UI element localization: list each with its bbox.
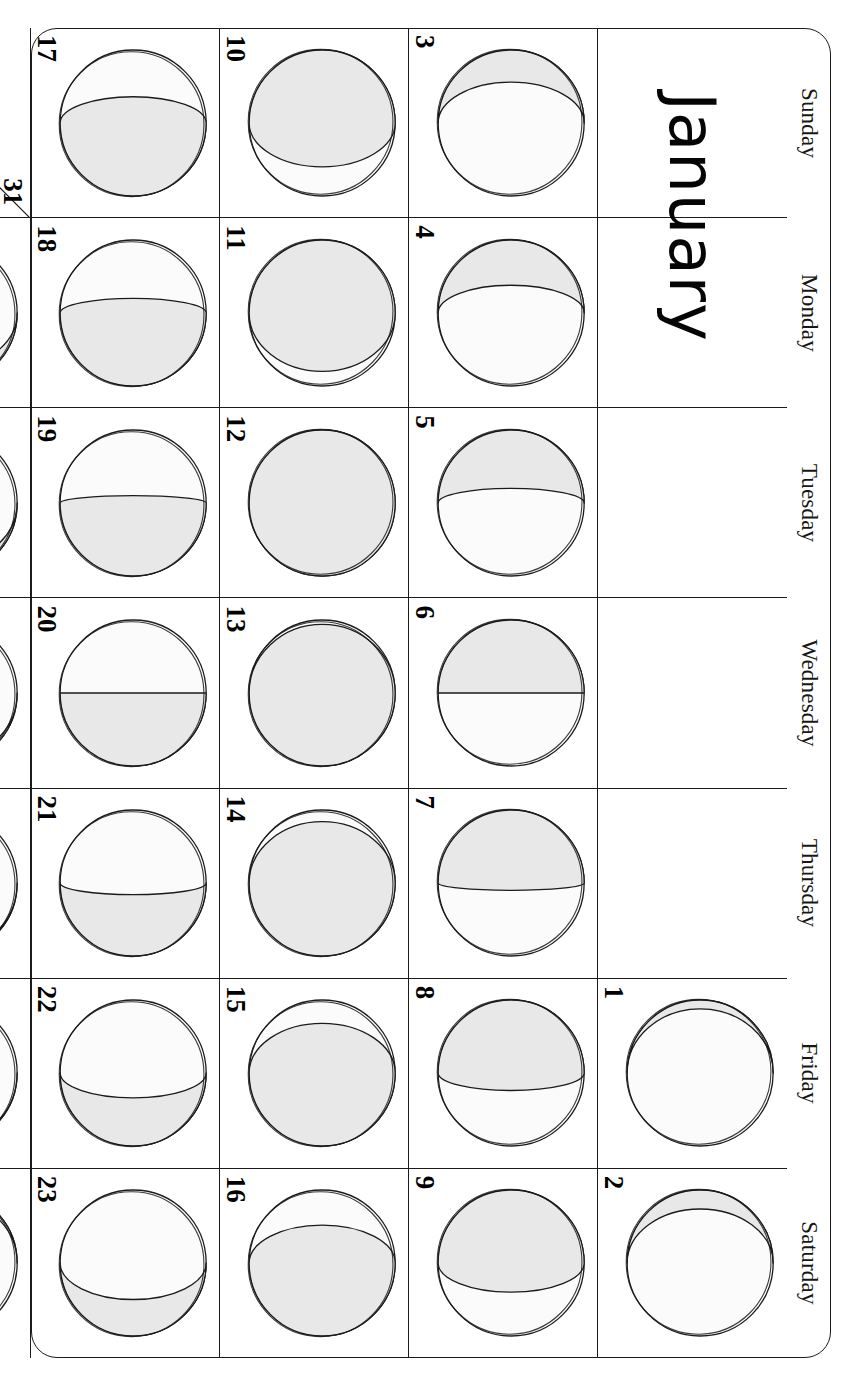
calendar-cell-day-4[interactable]: 4 [409, 217, 598, 407]
calendar-stage: SundayMondayTuesdayWednesdayThursdayFrid… [0, 0, 861, 1386]
moon-phase-day-4 [432, 238, 586, 388]
moon-phase-day-15 [243, 998, 397, 1148]
calendar-cell-day-5[interactable]: 5 [409, 407, 598, 597]
moon-phase-day-22 [54, 998, 208, 1148]
moon-phase-day-5 [432, 428, 586, 578]
day-number-7: 7 [411, 796, 438, 810]
day-name-thursday: Thursday [787, 788, 831, 978]
day-number-5: 5 [411, 415, 438, 429]
calendar-cell-day-20[interactable]: 20 [31, 597, 220, 787]
calendar-cell-day-11[interactable]: 11 [220, 217, 409, 407]
calendar-grid: 1234567891011121314151617181920212223243… [31, 28, 787, 1358]
day-number-8: 8 [411, 986, 438, 1000]
calendar-week-row: 17181920212223 [31, 28, 220, 1358]
day-name-saturday: Saturday [787, 1168, 831, 1358]
moon-phase-day-19 [54, 428, 208, 578]
moon-phase-day-25 [0, 238, 19, 388]
day-name-header-row: SundayMondayTuesdayWednesdayThursdayFrid… [787, 28, 831, 1358]
calendar-cell-empty [598, 597, 787, 787]
calendar-cell-day-29[interactable]: 29 [0, 978, 31, 1168]
moon-phase-day-17 [54, 48, 208, 198]
day-number-11: 11 [222, 225, 249, 251]
calendar-cell-day-13[interactable]: 13 [220, 597, 409, 787]
calendar-cell-day-3[interactable]: 3 [409, 28, 598, 217]
moon-phase-day-20 [54, 618, 208, 768]
moon-phase-day-21 [54, 808, 208, 958]
moon-phase-day-27 [0, 618, 19, 768]
day-number-13: 13 [222, 605, 249, 632]
calendar-cell-empty [598, 217, 787, 407]
moon-phase-day-8 [432, 998, 586, 1148]
day-number-18: 18 [33, 225, 60, 252]
moon-phase-day-2 [622, 1188, 776, 1338]
day-number-6: 6 [411, 605, 438, 619]
day-number-16: 16 [222, 1176, 249, 1203]
day-number-4: 4 [411, 225, 438, 239]
split-day-cell: 2431 [0, 28, 30, 217]
day-number-10: 10 [222, 35, 249, 62]
calendar-cell-empty [598, 28, 787, 217]
calendar-week-row: 10111213141516 [220, 28, 409, 1358]
calendar-cell-day-17[interactable]: 17 [31, 28, 220, 217]
calendar-cell-day-24[interactable]: 2431 [0, 28, 31, 217]
calendar-week-row: 12 [598, 28, 787, 1358]
day-number-14: 14 [222, 796, 249, 823]
calendar-cell-day-8[interactable]: 8 [409, 978, 598, 1168]
calendar-cell-day-23[interactable]: 23 [31, 1168, 220, 1358]
calendar-cell-empty [598, 788, 787, 978]
moon-phase-day-11 [243, 238, 397, 388]
day-number-31: 31 [0, 178, 26, 205]
calendar-cell-day-6[interactable]: 6 [409, 597, 598, 787]
moon-phase-day-29 [0, 998, 19, 1148]
calendar-cell-day-22[interactable]: 22 [31, 978, 220, 1168]
day-name-friday: Friday [787, 978, 831, 1168]
moon-phase-day-10 [243, 48, 397, 198]
calendar-week-row: 3456789 [409, 28, 598, 1358]
calendar-cell-day-30[interactable]: 30 [0, 1168, 31, 1358]
calendar-cell-day-9[interactable]: 9 [409, 1168, 598, 1358]
calendar-cell-day-21[interactable]: 21 [31, 788, 220, 978]
moon-phase-day-6 [432, 618, 586, 768]
calendar-cell-day-26[interactable]: 26 [0, 407, 31, 597]
day-number-23: 23 [33, 1176, 60, 1203]
moon-phase-day-7 [432, 808, 586, 958]
day-number-20: 20 [33, 605, 60, 632]
calendar-cell-day-7[interactable]: 7 [409, 788, 598, 978]
day-number-21: 21 [33, 796, 60, 823]
calendar-cell-empty [598, 407, 787, 597]
day-number-12: 12 [222, 415, 249, 442]
moon-phase-day-3 [432, 48, 586, 198]
calendar-sheet: SundayMondayTuesdayWednesdayThursdayFrid… [31, 28, 831, 1358]
calendar-cell-day-18[interactable]: 18 [31, 217, 220, 407]
moon-phase-day-23 [54, 1188, 208, 1338]
calendar-cell-day-1[interactable]: 1 [598, 978, 787, 1168]
moon-phase-day-12 [243, 428, 397, 578]
day-number-19: 19 [33, 415, 60, 442]
day-name-sunday: Sunday [787, 28, 831, 218]
calendar-cell-day-2[interactable]: 2 [598, 1168, 787, 1358]
calendar-cell-day-28[interactable]: 28 [0, 788, 31, 978]
day-number-9: 9 [411, 1176, 438, 1190]
calendar-cell-day-16[interactable]: 16 [220, 1168, 409, 1358]
calendar-cell-day-25[interactable]: 25 [0, 217, 31, 407]
moon-phase-day-16 [243, 1188, 397, 1338]
calendar-week-row: 2431252627282930 [0, 28, 31, 1358]
day-number-2: 2 [600, 1176, 627, 1190]
moon-phase-day-14 [243, 808, 397, 958]
moon-phase-day-28 [0, 808, 19, 958]
moon-phase-day-30 [0, 1188, 19, 1338]
moon-phase-day-9 [432, 1188, 586, 1338]
day-number-1: 1 [600, 986, 627, 1000]
day-name-tuesday: Tuesday [787, 408, 831, 598]
calendar-cell-day-10[interactable]: 10 [220, 28, 409, 217]
calendar-cell-day-12[interactable]: 12 [220, 407, 409, 597]
calendar-cell-day-14[interactable]: 14 [220, 788, 409, 978]
day-number-15: 15 [222, 986, 249, 1013]
calendar-cell-day-27[interactable]: 27 [0, 597, 31, 787]
calendar-cell-day-19[interactable]: 19 [31, 407, 220, 597]
moon-phase-day-26 [0, 428, 19, 578]
day-number-3: 3 [411, 35, 438, 49]
moon-phase-day-1 [622, 998, 776, 1148]
calendar-cell-day-15[interactable]: 15 [220, 978, 409, 1168]
day-number-22: 22 [33, 986, 60, 1013]
